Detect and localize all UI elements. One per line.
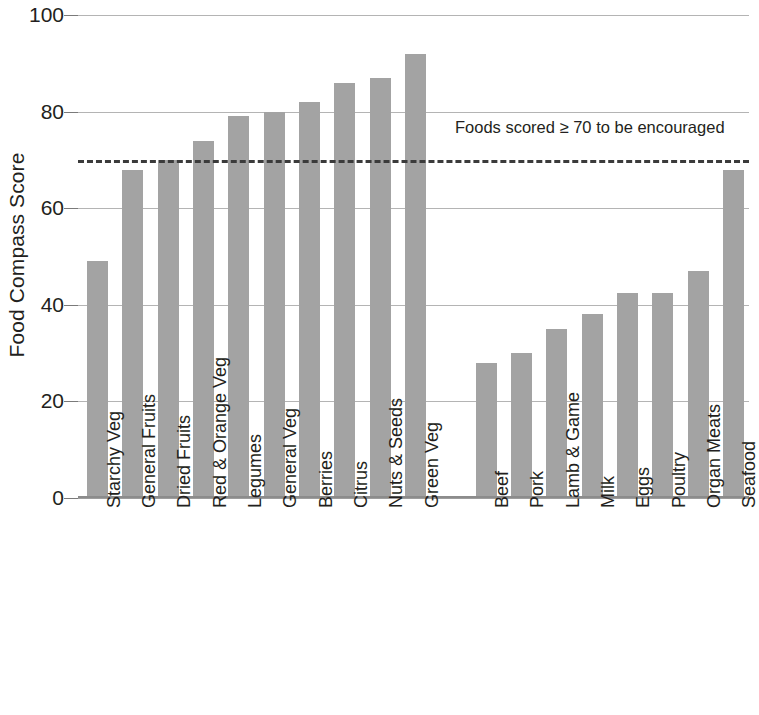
category-label-text: Seafood (740, 441, 758, 508)
category-label-text: Legumes (246, 434, 264, 508)
category-label-text: Green Veg (423, 422, 441, 508)
category-label-text: Berries (317, 451, 335, 508)
y-tick-20 (64, 401, 78, 402)
y-tick-100 (64, 15, 78, 16)
category-label-text: Citrus (352, 461, 370, 508)
y-axis-label-40: 40 (4, 294, 64, 315)
y-axis-tick-labels: 020406080100 (0, 15, 64, 498)
y-axis-label-80: 80 (4, 101, 64, 122)
y-tick-0 (64, 498, 78, 499)
y-axis-label-60: 60 (4, 197, 64, 218)
bar (582, 314, 603, 498)
x-axis-category-labels: Starchy VegGeneral FruitsDried FruitsRed… (78, 500, 749, 715)
category-label-text: Organ Meats (705, 404, 723, 508)
y-axis-label-0: 0 (4, 487, 64, 508)
y-tick-80 (64, 112, 78, 113)
threshold-dashed-line (78, 160, 749, 163)
category-label-text: Nuts & Seeds (387, 398, 405, 508)
y-tick-40 (64, 305, 78, 306)
category-label-text: General Veg (281, 408, 299, 508)
y-axis-label-100: 100 (4, 4, 64, 25)
threshold-annotation-label: Foods scored ≥ 70 to be encouraged (455, 118, 725, 137)
category-label-text: Beef (493, 471, 511, 508)
category-label-text: Lamb & Game (564, 392, 582, 508)
category-label-text: Poultry (670, 452, 688, 508)
gridline-100 (78, 15, 749, 16)
category-label-text: Red & Orange Veg (211, 357, 229, 508)
category-label-text: Dried Fruits (175, 415, 193, 508)
category-label-text: Milk (599, 476, 617, 508)
category-label-text: Starchy Veg (105, 411, 123, 508)
category-label-text: Eggs (634, 467, 652, 508)
y-axis-label-20: 20 (4, 390, 64, 411)
bar (334, 83, 355, 498)
category-label-text: General Fruits (140, 394, 158, 508)
y-tick-60 (64, 208, 78, 209)
category-label-text: Pork (528, 471, 546, 508)
